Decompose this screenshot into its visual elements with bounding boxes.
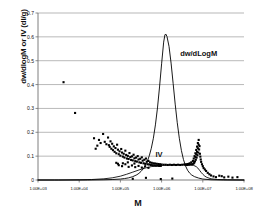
chart-plot-area (0, 0, 276, 216)
x-tick-label: 1.00E+06 (153, 186, 170, 191)
chart-container: 00.10.20.30.40.50.60.7 1.00E+031.00E+041… (0, 0, 276, 216)
scatter-series-iv-data (62, 81, 238, 180)
series-annotation: IV (155, 150, 162, 159)
y-axis-title: dw/dlogM or IV (dl/g) (19, 0, 28, 108)
y-tick-label: 0 (16, 177, 34, 183)
series-annotation: dw/dLogM (180, 49, 217, 58)
x-tick-label: 1.00E+08 (235, 186, 252, 191)
x-tick-label: 1.00E+05 (112, 186, 129, 191)
x-axis-title: M (0, 198, 276, 208)
x-tick-label: 1.00E+03 (29, 186, 46, 191)
axis-lines (38, 13, 244, 180)
gridlines (38, 13, 244, 156)
x-tick-label: 1.00E+04 (71, 186, 88, 191)
x-tick-label: 1.00E+07 (194, 186, 211, 191)
y-tick-label: 0.2 (16, 129, 34, 135)
y-tick-label: 0.1 (16, 153, 34, 159)
